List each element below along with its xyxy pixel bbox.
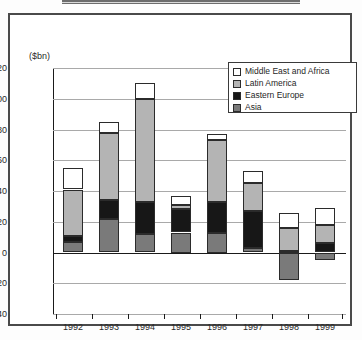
chart-page: ($bn) 120100806040200−20−40 199219931994… <box>0 0 362 340</box>
bar-segment-ee-1994[interactable] <box>135 202 155 234</box>
bar-segment-asia-1998[interactable] <box>279 253 299 281</box>
x-axis-tick-mark <box>200 314 201 319</box>
page-top-rule <box>62 0 300 4</box>
bar-segment-mea-1997[interactable] <box>243 171 263 183</box>
bar-segment-mea-1998[interactable] <box>279 213 299 228</box>
y-axis-tick-label: 100 <box>0 95 7 104</box>
bar-segment-latam-1994[interactable] <box>135 99 155 202</box>
bar-segment-mea-1999[interactable] <box>315 208 335 225</box>
bar-1993[interactable] <box>99 68 119 315</box>
x-axis-tick-mark <box>56 314 57 319</box>
x-axis-label-1998: 1998 <box>269 322 309 332</box>
y-axis-tick-label: 0 <box>0 249 7 258</box>
y-axis-tick-label: 40 <box>0 187 7 196</box>
gridline <box>53 160 346 161</box>
bar-segment-asia-1999[interactable] <box>315 253 335 261</box>
legend-label: Eastern Europe <box>245 91 304 100</box>
x-axis-tick-mark <box>342 314 343 319</box>
x-axis-tick-mark <box>164 314 165 319</box>
zero-line <box>53 253 346 254</box>
bar-segment-asia-1997[interactable] <box>243 248 263 253</box>
x-axis-label-1993: 1993 <box>89 322 129 332</box>
x-axis-label-1995: 1995 <box>161 322 201 332</box>
bar-segment-asia-1992[interactable] <box>63 242 83 253</box>
legend-item-mea[interactable]: Middle East and Africa <box>233 66 352 77</box>
legend-swatch-icon-latam <box>233 80 241 88</box>
legend-swatch-icon-mea <box>233 68 241 76</box>
x-axis-label-1999: 1999 <box>305 322 345 332</box>
bar-segment-mea-1993[interactable] <box>99 122 119 133</box>
y-axis-tick-label: 60 <box>0 156 7 165</box>
x-axis-tick-mark <box>308 314 309 319</box>
bar-segment-mea-1994[interactable] <box>135 83 155 98</box>
bar-segment-latam-1999[interactable] <box>315 225 335 244</box>
bar-segment-ee-1999[interactable] <box>315 243 335 252</box>
legend-item-asia[interactable]: Asia <box>233 102 352 113</box>
bar-segment-latam-1996[interactable] <box>207 140 227 202</box>
y-axis-tick-label: −20 <box>0 279 7 288</box>
legend-swatch-icon-asia <box>233 104 241 112</box>
bar-segment-latam-1992[interactable] <box>63 190 83 236</box>
legend-swatch-icon-ee <box>233 92 241 100</box>
bar-segment-asia-1995[interactable] <box>171 233 191 253</box>
bar-segment-mea-1995[interactable] <box>171 196 191 205</box>
x-axis-label-1996: 1996 <box>197 322 237 332</box>
gridline <box>53 191 346 192</box>
x-axis-label-1997: 1997 <box>233 322 273 332</box>
bar-segment-latam-1997[interactable] <box>243 183 263 211</box>
gridline <box>53 222 346 223</box>
bar-1996[interactable] <box>207 68 227 315</box>
bar-segment-ee-1993[interactable] <box>99 200 119 219</box>
gridline <box>53 283 346 284</box>
legend-label: Latin America <box>245 79 297 88</box>
legend-label: Middle East and Africa <box>245 67 330 76</box>
x-axis-tick-mark <box>272 314 273 319</box>
gridline <box>53 130 346 131</box>
x-axis-tick-mark <box>92 314 93 319</box>
bar-segment-asia-1996[interactable] <box>207 233 227 253</box>
y-axis-tick-label: −40 <box>0 310 7 319</box>
legend-label: Asia <box>245 103 262 112</box>
y-axis-tick-label: 120 <box>0 64 7 73</box>
y-axis-tick-label: 20 <box>0 218 7 227</box>
bar-segment-ee-1996[interactable] <box>207 202 227 233</box>
bar-segment-asia-1993[interactable] <box>99 219 119 253</box>
y-axis-tick-label: 80 <box>0 126 7 135</box>
bar-segment-asia-1994[interactable] <box>135 234 155 252</box>
bar-1992[interactable] <box>63 68 83 315</box>
bar-1994[interactable] <box>135 68 155 315</box>
x-axis-tick-mark <box>236 314 237 319</box>
x-axis-tick-mark <box>128 314 129 319</box>
bar-segment-mea-1992[interactable] <box>63 168 83 190</box>
bar-segment-ee-1995[interactable] <box>171 209 191 232</box>
bar-1995[interactable] <box>171 68 191 315</box>
bar-segment-latam-1993[interactable] <box>99 133 119 201</box>
bar-segment-latam-1998[interactable] <box>279 228 299 251</box>
x-axis-label-1994: 1994 <box>125 322 165 332</box>
figure-frame: ($bn) 120100806040200−20−40 199219931994… <box>8 13 352 326</box>
y-axis-unit-label: ($bn) <box>29 51 50 61</box>
chart-legend: Middle East and AfricaLatin AmericaEaste… <box>228 62 357 113</box>
legend-item-ee[interactable]: Eastern Europe <box>233 90 352 101</box>
legend-item-latam[interactable]: Latin America <box>233 78 352 89</box>
x-axis-label-1992: 1992 <box>53 322 93 332</box>
bar-segment-ee-1997[interactable] <box>243 211 263 248</box>
